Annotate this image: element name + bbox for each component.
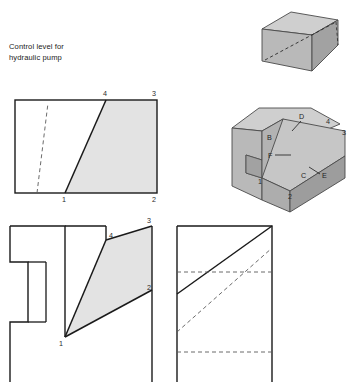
drawing-sheet: Control level for hydraulic pump 4 3 1 2 bbox=[0, 0, 350, 382]
bottom-left-label-2: 2 bbox=[147, 283, 151, 292]
top-left-label-3: 3 bbox=[152, 89, 156, 98]
bottom-left-label-3: 3 bbox=[147, 216, 151, 225]
top-left-shaded-face bbox=[65, 100, 157, 193]
bottom-left-label-1: 1 bbox=[59, 339, 63, 348]
bottom-right-outline bbox=[177, 226, 272, 382]
iso-block-lower: D B F C E 1 2 3 4 bbox=[232, 108, 346, 212]
drawing-canvas: 4 3 1 2 4 3 bbox=[0, 0, 350, 382]
bottom-left-label-4: 4 bbox=[109, 231, 113, 240]
iso-block-label-3: 3 bbox=[342, 128, 346, 137]
top-left-label-1: 1 bbox=[62, 195, 66, 204]
iso-block-label-C: C bbox=[301, 171, 306, 180]
iso-block-label-D: D bbox=[299, 112, 304, 121]
iso-block-label-B: B bbox=[267, 133, 272, 142]
iso-block-label-F: F bbox=[268, 151, 273, 160]
iso-block-label-2: 2 bbox=[288, 192, 292, 201]
iso-wedge-upper bbox=[262, 12, 338, 71]
iso-block-label-1: 1 bbox=[258, 177, 262, 186]
view-top-left: 4 3 1 2 bbox=[15, 89, 157, 204]
bottom-left-shaded-face bbox=[65, 226, 152, 337]
top-left-label-4: 4 bbox=[103, 89, 107, 98]
top-left-diagonal-hidden bbox=[37, 103, 48, 193]
view-bottom-right bbox=[177, 226, 272, 382]
top-left-label-2: 2 bbox=[152, 195, 156, 204]
bottom-left-notch-profile bbox=[10, 226, 65, 382]
iso-block-label-4: 4 bbox=[326, 117, 330, 126]
iso-block-label-E: E bbox=[322, 171, 327, 180]
view-bottom-left: 4 3 1 2 bbox=[10, 216, 152, 382]
iso-wedge-front-face bbox=[262, 29, 312, 71]
